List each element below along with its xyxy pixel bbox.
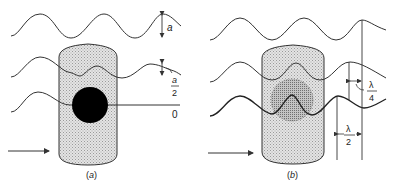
label-quarter-num: λ (369, 80, 374, 90)
label-quarter-den: 4 (369, 93, 374, 103)
opaque-disc (72, 87, 108, 123)
wave-b-top (210, 18, 386, 40)
leader-quarter (356, 84, 364, 90)
label-zero: 0 (172, 109, 178, 120)
label-halfwave-num: λ (346, 124, 351, 134)
label-half-den: 2 (172, 88, 177, 98)
figure: a a 2 0 (a) λ 4 λ (0, 0, 394, 191)
panel-a: a a 2 0 (a) (8, 14, 181, 180)
phase-disc (271, 79, 313, 121)
wave-a-top (11, 14, 181, 38)
caption-a: (a) (86, 170, 97, 180)
label-a: a (167, 22, 173, 33)
label-half-num: a (172, 75, 177, 85)
caption-b: (b) (287, 170, 298, 180)
label-halfwave-den: 2 (346, 137, 351, 147)
panel-b: λ 4 λ 2 (b) (208, 18, 386, 180)
